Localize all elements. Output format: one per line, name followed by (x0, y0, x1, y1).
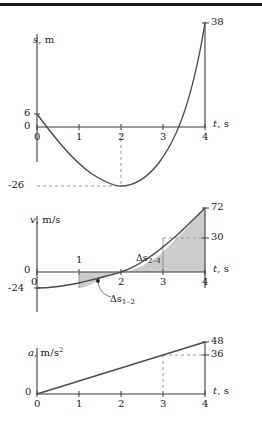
x-tick-label-2: 2 (118, 398, 124, 409)
y-axis-label-velocity: v, m/s (30, 214, 61, 225)
x-tick-label-1: 1 (76, 254, 82, 265)
x-tick-label-4: 4 (202, 276, 208, 287)
x-axis-label-velocity: t, s (213, 263, 229, 274)
chart-velocity: v, m/s t, s 72 30 0 -24 0 1 2 3 4 Δs1–2 … (0, 200, 262, 330)
value-neg-26: -26 (8, 179, 24, 190)
x-tick-label-0: 0 (34, 398, 40, 409)
x-tick-label-3: 3 (160, 131, 166, 142)
x-tick-label-1: 1 (76, 131, 82, 142)
value-48: 48 (211, 335, 224, 346)
y-axis-label-acceleration: a, m/s2 (28, 346, 63, 358)
x-tick-label-2: 2 (118, 276, 124, 287)
x-tick-label-4: 4 (202, 398, 208, 409)
value-6: 6 (24, 107, 30, 118)
annotation-label-ds-2-4: Δs2–4 (136, 252, 161, 265)
x-tick-label-0: 0 (34, 131, 40, 142)
x-tick-label-4: 4 (202, 131, 208, 142)
x-axis-label-displacement: t, s (213, 118, 229, 129)
x-tick-label-2: 2 (118, 131, 124, 142)
page-top-rule (0, 3, 262, 6)
figure-page: s, m t, s 38 6 0 -26 0 1 2 3 4 (0, 0, 262, 430)
x-tick-label-0: 0 (31, 276, 37, 287)
chart-displacement: s, m t, s 38 6 0 -26 0 1 2 3 4 (0, 14, 262, 162)
x-tick-label-3: 3 (160, 276, 166, 287)
y-axis-label-displacement: s, m (33, 34, 54, 45)
value-0: 0 (24, 120, 30, 131)
value-0: 0 (25, 386, 31, 397)
value-neg-24: -24 (8, 282, 24, 293)
x-axis-label-acceleration: t, s (213, 385, 229, 396)
x-tick-label-1: 1 (76, 398, 82, 409)
x-tick-label-3: 3 (160, 398, 166, 409)
value-38: 38 (211, 16, 224, 27)
value-72: 72 (211, 201, 224, 212)
annotation-label-ds-1-2: Δs1–2 (110, 293, 135, 306)
displacement-curve (37, 23, 205, 186)
value-0: 0 (24, 264, 30, 275)
chart-acceleration: a, m/s2 t, s 48 36 0 0 1 2 3 4 (0, 336, 262, 430)
value-30: 30 (211, 231, 224, 242)
value-36: 36 (211, 348, 224, 359)
